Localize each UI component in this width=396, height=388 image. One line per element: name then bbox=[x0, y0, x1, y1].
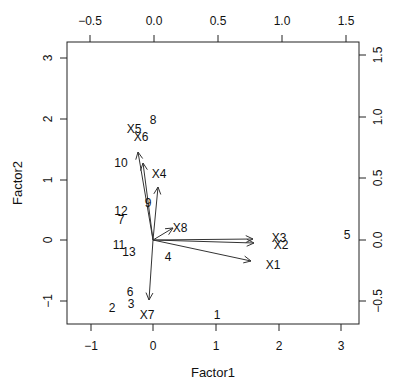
loading-label: X8 bbox=[173, 221, 188, 235]
top-tick-label: 1.0 bbox=[274, 14, 291, 28]
loading-label: X1 bbox=[266, 258, 281, 272]
loading-arrow-shaft bbox=[149, 240, 153, 300]
biplot-chart: −10123 3210−1 −0.50.00.51.01.5 1.51.00.5… bbox=[0, 0, 396, 388]
score-label: 5 bbox=[344, 228, 351, 242]
x-tick-label: 1 bbox=[213, 339, 220, 353]
score-label: 2 bbox=[109, 301, 116, 315]
y-tick-label: 0 bbox=[41, 236, 55, 243]
loading-label: X3 bbox=[272, 231, 287, 245]
top-axis: −0.50.00.51.01.5 bbox=[78, 14, 355, 42]
x-tick-label: 2 bbox=[276, 339, 283, 353]
score-label: 12 bbox=[114, 204, 128, 218]
score-label: 6 bbox=[127, 285, 134, 299]
top-tick-label: 0.5 bbox=[210, 14, 227, 28]
loading-arrow-shaft bbox=[153, 187, 158, 240]
top-tick-label: −0.5 bbox=[78, 14, 102, 28]
score-label: 10 bbox=[114, 156, 128, 170]
score-label: 13 bbox=[122, 245, 136, 259]
y-tick-label: 3 bbox=[41, 54, 55, 61]
score-label: 8 bbox=[150, 113, 157, 127]
right-tick-label: 1.0 bbox=[371, 108, 385, 125]
loading-label: X4 bbox=[152, 167, 167, 181]
y-axis-title: Factor2 bbox=[10, 161, 25, 205]
y-tick-label: 1 bbox=[41, 176, 55, 183]
score-label: 3 bbox=[128, 297, 135, 311]
right-tick-label: 1.5 bbox=[371, 46, 385, 63]
bottom-axis: −10123 bbox=[84, 324, 345, 353]
loading-label: X7 bbox=[140, 308, 155, 322]
score-labels: 12345678910111213 bbox=[109, 113, 351, 322]
x-tick-label: 0 bbox=[150, 339, 157, 353]
y-tick-label: 2 bbox=[41, 115, 55, 122]
score-label: 1 bbox=[214, 308, 221, 322]
y-tick-label: −1 bbox=[41, 294, 55, 308]
score-label: 9 bbox=[145, 196, 152, 210]
x-axis-title: Factor1 bbox=[191, 365, 235, 380]
loading-arrow-shaft bbox=[153, 228, 173, 240]
top-tick-label: 0.0 bbox=[146, 14, 163, 28]
left-axis: 3210−1 bbox=[41, 54, 67, 308]
loading-arrows: X1X2X3X4X5X6X7X8 bbox=[127, 122, 289, 322]
right-axis: 1.51.00.50.0−0.5 bbox=[359, 46, 385, 313]
loading-arrow-shaft bbox=[153, 239, 253, 240]
score-label: 4 bbox=[165, 250, 172, 264]
x-tick-label: −1 bbox=[84, 339, 98, 353]
right-tick-label: −0.5 bbox=[371, 289, 385, 313]
right-tick-label: 0.5 bbox=[371, 169, 385, 186]
x-tick-label: 3 bbox=[338, 339, 345, 353]
right-tick-label: 0.0 bbox=[371, 231, 385, 248]
plot-frame bbox=[67, 42, 359, 324]
loading-label: X6 bbox=[134, 130, 149, 144]
top-tick-label: 1.5 bbox=[338, 14, 355, 28]
plot-box bbox=[67, 42, 359, 324]
loading-arrow-shaft bbox=[153, 240, 254, 243]
